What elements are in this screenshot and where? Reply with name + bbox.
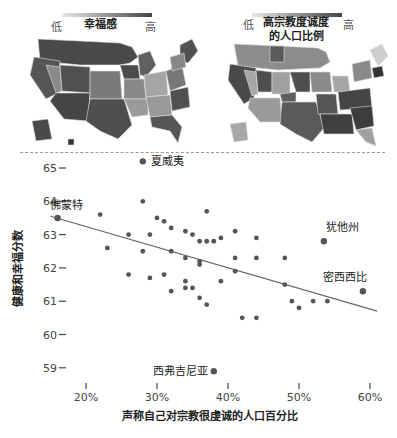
data-point (254, 315, 259, 320)
data-point (98, 212, 103, 217)
data-point (219, 279, 224, 284)
data-point (233, 269, 238, 274)
y-axis-ticks: 65646362616059 (43, 162, 66, 375)
data-point (155, 216, 160, 221)
data-point (105, 246, 110, 251)
data-point (325, 299, 330, 304)
data-point (233, 256, 238, 261)
data-point (197, 262, 202, 267)
x-tick-label: 60% (358, 391, 382, 404)
data-point (311, 299, 316, 304)
x-tick-label: 50% (287, 391, 311, 404)
x-tick-label: 20% (74, 391, 98, 404)
data-point (282, 256, 287, 261)
data-point (204, 302, 209, 307)
data-point (183, 256, 188, 261)
scatter-chart: 65646362616059 20%30%40%50%60% 夏威夷佛蒙特犹他州… (0, 0, 397, 438)
data-point (197, 295, 202, 300)
labeled-points: 夏威夷佛蒙特犹他州密西西比西弗吉尼亚 (50, 155, 367, 378)
data-point (190, 285, 195, 290)
point-label: 夏威夷 (151, 155, 184, 168)
labeled-data-point (140, 158, 146, 164)
data-point (183, 279, 188, 284)
y-tick-label: 65 (43, 162, 57, 175)
data-point (140, 199, 145, 204)
y-tick-label: 62 (43, 262, 57, 275)
data-point (126, 272, 131, 277)
y-tick-label: 61 (43, 295, 57, 308)
data-point (162, 219, 167, 224)
x-axis-ticks: 20%30%40%50%60% (74, 383, 382, 404)
point-label: 佛蒙特 (50, 198, 83, 212)
data-point (204, 239, 209, 244)
point-label: 犹他州 (326, 221, 359, 234)
data-points (98, 199, 330, 320)
data-point (240, 315, 245, 320)
data-point (254, 236, 259, 241)
x-tick-label: 30% (145, 391, 169, 404)
data-point (297, 305, 302, 310)
data-point (169, 249, 174, 254)
point-label: 西弗吉尼亚 (153, 364, 208, 378)
data-point (211, 239, 216, 244)
data-point (190, 232, 195, 237)
x-axis-title: 声称自己对宗教很虔诚的人口百分比 (121, 409, 298, 423)
data-point (254, 256, 259, 261)
data-point (140, 249, 145, 254)
labeled-data-point (321, 238, 327, 244)
data-point (169, 289, 174, 294)
point-label: 密西西比 (323, 270, 367, 284)
labeled-data-point (211, 368, 217, 374)
data-point (204, 209, 209, 214)
data-point (162, 272, 167, 277)
labeled-data-point (360, 288, 366, 294)
x-tick-label: 40% (216, 391, 240, 404)
data-point (126, 232, 131, 237)
labeled-data-point (54, 215, 60, 221)
data-point (183, 229, 188, 234)
y-tick-label: 63 (43, 229, 57, 242)
data-point (219, 236, 224, 241)
y-tick-label: 60 (43, 329, 57, 342)
data-point (148, 275, 153, 280)
data-point (290, 299, 295, 304)
y-axis-title: 健康和幸福分数 (11, 229, 25, 307)
data-point (282, 282, 287, 287)
data-point (183, 285, 188, 290)
data-point (169, 226, 174, 231)
y-tick-label: 59 (43, 362, 57, 375)
data-point (148, 232, 153, 237)
data-point (233, 229, 238, 234)
data-point (197, 239, 202, 244)
